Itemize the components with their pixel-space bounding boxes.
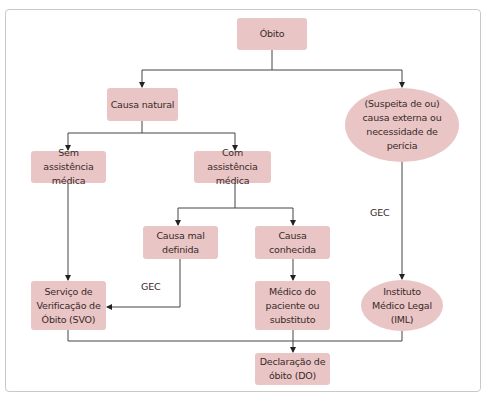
edge-label-gec-left: GEC [141, 281, 160, 292]
node-causa-natural: Causa natural [107, 88, 178, 121]
node-iml: Instituto Médico Legal (IML) [361, 280, 443, 331]
node-svo: Serviço de Verificação de Óbito (SVO) [31, 281, 106, 330]
edges [0, 0, 488, 403]
node-causa-mal-definida: Causa mal definida [143, 226, 218, 259]
node-causa-conhecida: Causa conhecida [255, 226, 330, 259]
node-causa-externa: (Suspeita de ou) causa externa ou necess… [345, 88, 459, 162]
node-sem-assistencia: Sem assistência médica [31, 151, 106, 183]
node-medico: Médico do paciente ou substituto [255, 281, 330, 330]
node-declaracao-obito: Declaração de óbito (DO) [255, 353, 330, 385]
edge-label-gec-right: GEC [370, 207, 389, 218]
node-obito: Óbito [237, 18, 307, 50]
node-com-assistencia: Com assistência médica [194, 151, 271, 183]
